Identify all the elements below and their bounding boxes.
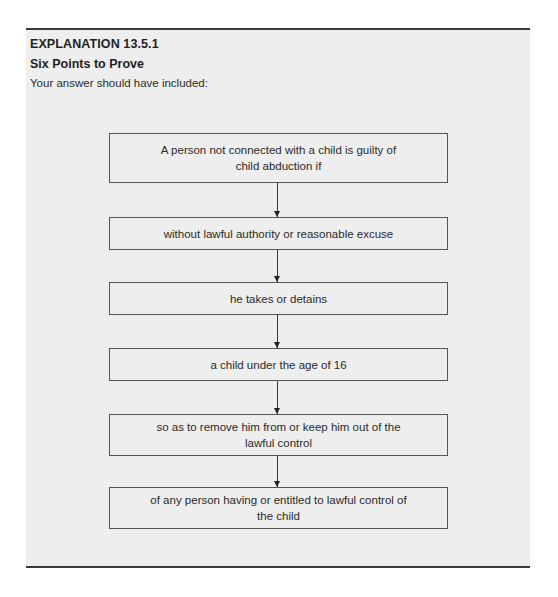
flow-step-text: of any person having or entitled to lawf… [150, 492, 407, 524]
flow-step-4: a child under the age of 16 [109, 348, 448, 381]
flow-arrow-5 [277, 456, 278, 487]
flow-step-2: without lawful authority or reasonable e… [109, 217, 448, 250]
section-subheading: Six Points to Prove [30, 57, 144, 71]
flow-step-text: a child under the age of 16 [210, 357, 346, 373]
flow-step-6: of any person having or entitled to lawf… [109, 487, 448, 529]
explanation-panel: EXPLANATION 13.5.1 Six Points to Prove Y… [26, 28, 530, 568]
explanation-heading: EXPLANATION 13.5.1 [30, 37, 159, 51]
flow-step-text: he takes or detains [230, 291, 327, 307]
flow-step-text: without lawful authority or reasonable e… [164, 226, 394, 242]
flow-step-3: he takes or detains [109, 282, 448, 315]
intro-text: Your answer should have included: [30, 77, 208, 89]
flow-step-text: A person not connected with a child is g… [150, 142, 407, 174]
flow-arrow-4 [277, 381, 278, 414]
flow-arrow-2 [277, 250, 278, 282]
flow-arrow-3 [277, 315, 278, 348]
flow-step-5: so as to remove him from or keep him out… [109, 414, 448, 456]
flow-arrow-1 [277, 183, 278, 217]
flow-step-text: so as to remove him from or keep him out… [150, 419, 407, 451]
flow-step-1: A person not connected with a child is g… [109, 133, 448, 183]
